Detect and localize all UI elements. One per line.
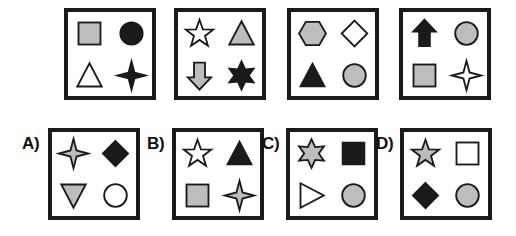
shape-cell — [404, 132, 446, 174]
shape-grid — [176, 132, 260, 216]
shape-cell — [110, 54, 152, 96]
answer-option-b[interactable] — [172, 128, 264, 220]
shape-cell — [333, 12, 375, 54]
shape-cell — [220, 12, 262, 54]
black-four-pointed-star — [115, 59, 148, 92]
answer-option-b-label: B) — [147, 135, 164, 152]
shape-cell — [178, 54, 220, 96]
answer-option-a-label: A) — [22, 135, 39, 152]
answer-option-d[interactable] — [400, 128, 492, 220]
answer-option-c[interactable] — [286, 128, 378, 220]
answer-option-d-label: D) — [376, 135, 393, 152]
shape-cell — [445, 12, 487, 54]
gray-down-triangle — [57, 179, 90, 212]
black-six-pointed-star — [225, 59, 258, 92]
gray-triangle — [225, 17, 258, 50]
black-square — [337, 137, 370, 170]
black-up-arrow — [408, 17, 441, 50]
gray-square — [73, 17, 106, 50]
shape-grid — [178, 12, 262, 96]
shape-cell — [403, 54, 445, 96]
shape-cell — [218, 132, 260, 174]
shape-grid — [52, 132, 136, 216]
shape-grid — [68, 12, 152, 96]
gray-circle — [451, 179, 484, 212]
shape-cell — [332, 132, 374, 174]
gray-down-arrow — [183, 59, 216, 92]
shape-cell — [218, 174, 260, 216]
shape-cell — [290, 132, 332, 174]
shape-cell — [404, 174, 446, 216]
shape-cell — [68, 12, 110, 54]
shape-cell — [446, 132, 488, 174]
black-triangle — [296, 59, 329, 92]
shape-cell — [446, 174, 488, 216]
shape-cell — [68, 54, 110, 96]
white-four-pointed-star — [450, 59, 483, 92]
gray-six-pointed-star — [295, 137, 328, 170]
shape-cell — [403, 12, 445, 54]
stimulus-panel-1 — [64, 8, 156, 100]
shape-cell — [333, 54, 375, 96]
answer-option-a[interactable] — [48, 128, 140, 220]
gray-hexagon — [296, 17, 329, 50]
stimulus-panel-2 — [174, 8, 266, 100]
shape-cell — [445, 54, 487, 96]
shape-cell — [176, 132, 218, 174]
shape-cell — [94, 174, 136, 216]
shape-puzzle: A)B)C)D) — [0, 0, 516, 236]
white-right-triangle — [295, 179, 328, 212]
black-triangle — [223, 137, 256, 170]
answer-option-c-label: C) — [262, 135, 279, 152]
gray-square — [181, 179, 214, 212]
black-diamond — [99, 137, 132, 170]
shape-cell — [291, 12, 333, 54]
gray-circle — [337, 179, 370, 212]
white-circle — [99, 179, 132, 212]
shape-cell — [94, 132, 136, 174]
gray-four-pointed-star — [57, 137, 90, 170]
shape-cell — [291, 54, 333, 96]
shape-cell — [178, 12, 220, 54]
black-circle — [115, 17, 148, 50]
shape-grid — [403, 12, 487, 96]
shape-cell — [176, 174, 218, 216]
white-five-pointed-star — [183, 17, 216, 50]
gray-four-pointed-star — [223, 179, 256, 212]
gray-circle — [450, 17, 483, 50]
shape-grid — [291, 12, 375, 96]
white-square — [451, 137, 484, 170]
gray-five-pointed-star — [409, 137, 442, 170]
shape-grid — [404, 132, 488, 216]
shape-grid — [290, 132, 374, 216]
stimulus-panel-4 — [399, 8, 491, 100]
shape-cell — [52, 132, 94, 174]
shape-cell — [110, 12, 152, 54]
shape-cell — [332, 174, 374, 216]
shape-cell — [290, 174, 332, 216]
black-diamond — [409, 179, 442, 212]
white-diamond — [338, 17, 371, 50]
gray-circle — [338, 59, 371, 92]
white-five-pointed-star — [181, 137, 214, 170]
gray-square — [408, 59, 441, 92]
stimulus-panel-3 — [287, 8, 379, 100]
white-triangle — [73, 59, 106, 92]
shape-cell — [220, 54, 262, 96]
shape-cell — [52, 174, 94, 216]
